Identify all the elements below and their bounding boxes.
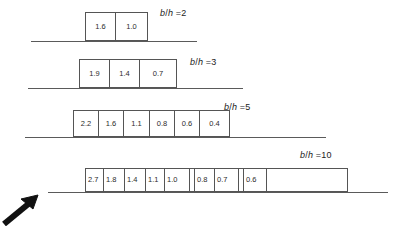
value-cell: 0.8 xyxy=(150,111,175,137)
ratio-label-value: =10 xyxy=(316,150,332,160)
value-cell: 1.0 xyxy=(165,169,190,192)
value-cell: 1.9 xyxy=(80,60,110,88)
value-cell: 0.6 xyxy=(244,169,267,192)
value-cell: 1.6 xyxy=(86,13,116,41)
ratio-label-row-1: b/h =2 xyxy=(160,8,187,18)
value-cell: 1.6 xyxy=(99,111,124,137)
value-cell: 0.7 xyxy=(140,60,177,88)
cell-group-row-2: 1.9 1.4 0.7 xyxy=(79,59,177,88)
direction-arrow-icon xyxy=(2,194,44,226)
ratio-label-row-2: b/h =3 xyxy=(190,57,217,67)
value-cell: 0.8 xyxy=(195,169,215,192)
ratio-label-value: =5 xyxy=(240,102,251,112)
value-cell: 0.7 xyxy=(215,169,239,192)
cell-group-row-3: 2.2 1.6 1.1 0.8 0.6 0.4 xyxy=(73,110,230,137)
ratio-label-row-4: b/h =10 xyxy=(300,150,332,160)
baseline-row-4 xyxy=(48,192,388,193)
value-cell: 1.0 xyxy=(116,13,148,41)
cell-group-row-4: 2.7 1.8 1.4 1.1 1.0 0.8 0.7 0.6 xyxy=(85,168,348,192)
value-cell: 1.8 xyxy=(104,169,125,192)
value-cell: 0.6 xyxy=(175,111,200,137)
baseline-row-1 xyxy=(31,41,197,42)
ratio-label-value: =2 xyxy=(176,8,187,18)
baseline-row-3 xyxy=(25,137,326,138)
value-cell: 1.1 xyxy=(146,169,165,192)
value-cell: 1.4 xyxy=(110,60,140,88)
ratio-label-row-3: b/h =5 xyxy=(224,102,251,112)
value-cell: 0.4 xyxy=(200,111,230,137)
figure-canvas: 1.6 1.0 b/h =2 1.9 1.4 0.7 b/h =3 2.2 1.… xyxy=(0,0,396,227)
ratio-label-value: =3 xyxy=(206,57,217,67)
value-cell: 1.4 xyxy=(125,169,146,192)
value-cell: 2.7 xyxy=(86,169,104,192)
value-cell: 1.1 xyxy=(124,111,150,137)
cell-group-row-1: 1.6 1.0 xyxy=(85,12,148,41)
baseline-row-2 xyxy=(28,88,243,89)
value-cell: 2.2 xyxy=(74,111,99,137)
empty-tail-cell xyxy=(267,169,348,192)
